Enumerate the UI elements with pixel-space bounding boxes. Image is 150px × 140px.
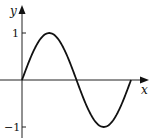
- x-axis-label: x: [141, 83, 148, 97]
- y-axis-arrow-icon: [19, 5, 26, 14]
- y-tick-label-1: 1: [12, 27, 19, 40]
- y-tick-label-neg1: −1: [4, 121, 20, 134]
- y-axis-label: y: [9, 4, 17, 18]
- sine-chart: y x 1 −1: [0, 0, 150, 140]
